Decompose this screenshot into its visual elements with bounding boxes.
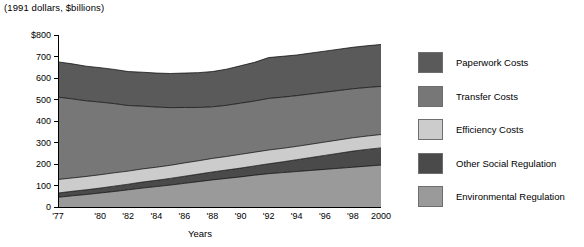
legend-item: Other Social Regulation [418,153,584,174]
legend-swatch-paperwork-costs [418,52,443,73]
x-tick-label: '94 [291,211,303,221]
x-axis-title: Years [0,228,400,239]
x-tick-label: '86 [179,211,191,221]
legend-item: Paperwork Costs [418,52,584,73]
x-tick-label: '88 [207,211,219,221]
legend-item: Environmental Regulation [418,186,584,207]
legend-label: Other Social Regulation [456,158,556,169]
x-tick-label: '84 [150,211,162,221]
y-tick-label: 100 [36,181,51,191]
x-tick-label: '82 [122,211,134,221]
y-tick-label: 0 [46,202,51,212]
x-tick-label: '92 [263,211,275,221]
y-tick-label: 500 [36,95,51,105]
x-tick-label: '98 [347,211,359,221]
x-tick-label: '90 [235,211,247,221]
legend-label: Transfer Costs [456,91,518,102]
chart-areas [58,44,381,207]
page-title: (1991 dollars, $billions) [4,2,104,13]
chart-legend: Paperwork Costs Transfer Costs Efficienc… [418,52,584,220]
legend-swatch-efficiency-costs [418,119,443,140]
stacked-area-chart: $8007006005004003002001000 '77'80'82'84'… [0,24,400,224]
y-tick-label: 600 [36,73,51,83]
y-axis-tick-labels: $8007006005004003002001000 [31,30,51,212]
y-tick-label: 400 [36,116,51,126]
y-tick-label: 700 [36,52,51,62]
y-tick-label: $800 [31,30,51,40]
legend-swatch-other-social-regulation [418,153,443,174]
y-tick-label: 300 [36,138,51,148]
legend-swatch-environmental-regulation [418,186,443,207]
x-tick-label: '96 [319,211,331,221]
x-tick-label: '77 [52,211,64,221]
x-tick-label: 2000 [371,211,391,221]
legend-item: Transfer Costs [418,86,584,107]
legend-item: Efficiency Costs [418,119,584,140]
legend-label: Efficiency Costs [456,124,523,135]
x-axis-tick-labels: '77'80'82'84'86'88'90'92'94'96'982000 [52,211,391,221]
legend-label: Environmental Regulation [456,191,565,202]
x-tick-label: '80 [94,211,106,221]
chart-svg: $8007006005004003002001000 '77'80'82'84'… [0,24,400,224]
y-tick-label: 200 [36,159,51,169]
legend-swatch-transfer-costs [418,86,443,107]
legend-label: Paperwork Costs [456,57,528,68]
